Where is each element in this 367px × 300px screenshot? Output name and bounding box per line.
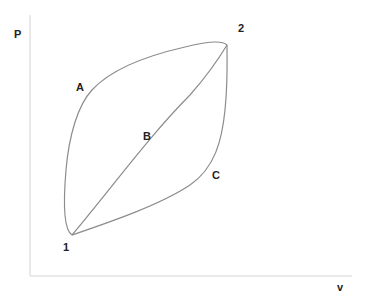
x-axis-label: v <box>337 281 344 293</box>
state-1-label: 1 <box>63 241 69 253</box>
state-2-label: 2 <box>238 22 244 34</box>
path-a-label: A <box>76 81 84 93</box>
path-b-label: B <box>143 130 151 142</box>
y-axis-label: P <box>14 28 21 40</box>
pv-diagram: P v 1 2 A B C <box>0 0 367 300</box>
path-c-label: C <box>212 169 220 181</box>
